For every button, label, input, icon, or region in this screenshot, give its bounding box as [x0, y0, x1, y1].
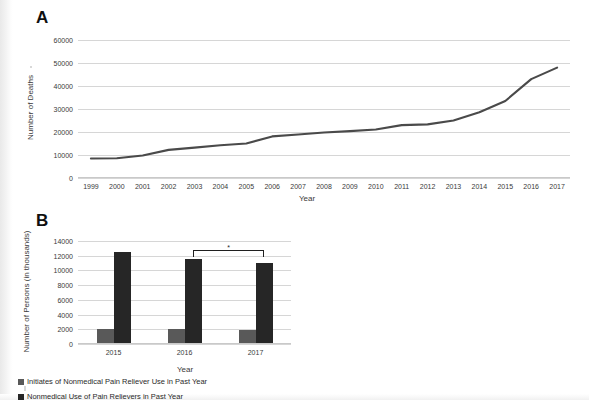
- y-tick-label: 0: [69, 175, 78, 182]
- x-tick-label: 2016: [523, 178, 539, 190]
- significance-bracket: [193, 250, 264, 257]
- legend-swatch-icon: [18, 394, 24, 400]
- x-tick-label: 2015: [106, 344, 122, 356]
- legend-swatch-icon: [18, 379, 24, 385]
- chart-legend: Initiates of Nonmedical Pain Reliever Us…: [18, 377, 438, 400]
- legend-item-label: Nonmedical Use of Pain Relievers in Past…: [27, 392, 183, 400]
- y-tick-label: 20000: [54, 129, 78, 136]
- legend-item: Nonmedical Use of Pain Relievers in Past…: [18, 392, 438, 400]
- x-tick-label: 2016: [177, 344, 193, 356]
- figure-panel-a: A Number of Deaths 010000200003000040000…: [0, 0, 589, 210]
- y-tick-label: 14000: [54, 238, 78, 245]
- x-tick-label: 2014: [472, 178, 488, 190]
- y-tick-label: 50000: [54, 60, 78, 67]
- y-tick-label: 12000: [54, 252, 78, 259]
- bar: [168, 329, 185, 344]
- y-tick-label: 10000: [54, 267, 78, 274]
- x-tick-label: 2003: [187, 178, 203, 190]
- panel-b-label: B: [36, 211, 48, 231]
- x-tick-label: 2001: [135, 178, 151, 190]
- y-tick-label: 10000: [54, 152, 78, 159]
- panel-a-y-axis-title: Number of Deaths: [26, 60, 35, 156]
- x-tick-label: 2013: [446, 178, 462, 190]
- panel-a-x-axis-title: Year: [299, 194, 315, 203]
- bar: [256, 263, 273, 344]
- y-tick-label: 60000: [54, 37, 78, 44]
- x-tick-label: 2017: [549, 178, 565, 190]
- bar: [185, 259, 202, 344]
- figure-panel-b: B Number of Persons (in thousands) 02000…: [0, 205, 589, 400]
- legend-item: Initiates of Nonmedical Pain Reliever Us…: [18, 377, 438, 386]
- y-tick-label: 4000: [57, 311, 78, 318]
- bar: [239, 330, 256, 344]
- y-tick-label: 40000: [54, 83, 78, 90]
- panel-a-line-series: [78, 40, 570, 178]
- x-tick-label: 2012: [420, 178, 436, 190]
- x-tick-label: 2010: [368, 178, 384, 190]
- panel-a-plot-area: 0100002000030000400005000060000 19992000…: [78, 40, 570, 178]
- panel-b-x-axis-title: Year: [177, 365, 193, 374]
- x-tick-label: 2002: [161, 178, 177, 190]
- panel-b-y-axis-title: Number of Persons (in thousands): [22, 216, 31, 366]
- x-tick-label: 2011: [394, 178, 409, 190]
- x-tick-label: 2005: [239, 178, 255, 190]
- x-tick-label: 2004: [213, 178, 229, 190]
- y-tick-label: 6000: [57, 296, 78, 303]
- x-tick-label: 2008: [316, 178, 332, 190]
- panel-a-label: A: [36, 8, 48, 28]
- x-tick-label: 2015: [497, 178, 513, 190]
- bar: [114, 252, 131, 344]
- x-tick-label: 2007: [290, 178, 306, 190]
- y-tick-label: 0: [69, 341, 78, 348]
- y-tick-label: 30000: [54, 106, 78, 113]
- x-tick-label: 2000: [109, 178, 125, 190]
- gridline: [78, 241, 291, 242]
- x-tick-label: 2006: [264, 178, 280, 190]
- significance-asterisk: *: [227, 244, 230, 251]
- y-tick-label: 8000: [57, 282, 78, 289]
- panel-b-plot-area: 02000400060008000100001200014000 2015201…: [78, 241, 291, 344]
- y-tick-label: 2000: [57, 326, 78, 333]
- panel-b-x-axis-line: [78, 343, 291, 344]
- legend-item-label: Initiates of Nonmedical Pain Reliever Us…: [27, 377, 207, 386]
- bar: [97, 329, 114, 344]
- x-tick-label: 1999: [83, 178, 99, 190]
- x-tick-label: 2017: [248, 344, 264, 356]
- x-tick-label: 2009: [342, 178, 358, 190]
